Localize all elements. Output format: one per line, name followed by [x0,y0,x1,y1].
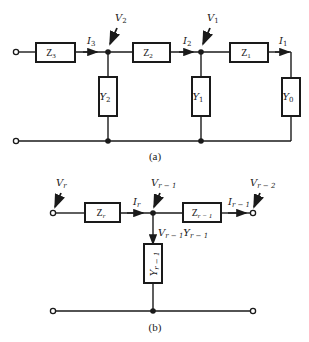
admittance-y1: Y1 [192,77,210,116]
voltage-pointer-icon [154,193,160,207]
impedance-z2: Z2 [133,43,170,62]
current-label-i2: I2 [182,35,191,48]
terminal-icon [50,308,55,313]
node-icon [150,308,156,314]
figure-a-caption: (a) [149,150,162,163]
terminal-icon [250,308,255,313]
node-icon [150,210,156,216]
current-label-ir-1: Ir − 1 [227,196,250,209]
figure-b: Zr Zr − 1 Yr − 1 Ir Ir − 1 Vr Vr − 1 Vr … [50,177,275,334]
terminal-icon [250,210,255,215]
impedance-zr: Zr [85,203,120,222]
terminal-icon [50,210,55,215]
current-label-ir: Ir [132,196,141,209]
figure-a: Z3 Z2 Z1 Y2 Y1 Y0 I3 I2 I1 [13,12,300,163]
impedance-zr-1: Zr − 1 [183,203,221,222]
voltage-label-vr-1: Vr − 1 [151,177,176,190]
current-label-i3: I3 [86,35,95,48]
admittance-yr-1: Yr − 1 [144,244,162,283]
node-icon [198,138,204,144]
node-icon [105,138,111,144]
voltage-pointer-icon [55,193,61,207]
impedance-z3: Z3 [36,43,75,62]
terminal-icon [13,138,18,143]
current-label-i1: I1 [278,35,287,48]
branch-current-label: Vr − 1Yr − 1 [158,227,208,240]
terminal-icon [13,49,18,54]
voltage-pointer-icon [254,193,260,207]
voltage-pointer-icon [203,28,210,44]
voltage-label-v1: V1 [207,12,219,25]
admittance-y2: Y2 [99,77,117,116]
voltage-label-v2: V2 [115,12,127,25]
node-icon [105,49,111,55]
voltage-pointer-icon [110,28,117,44]
voltage-label-vr: Vr [56,177,67,190]
admittance-y0: Y0 [282,78,300,116]
impedance-z1: Z1 [230,43,268,62]
ladder-network-diagram: Z3 Z2 Z1 Y2 Y1 Y0 I3 I2 I1 [0,0,309,342]
figure-b-caption: (b) [149,321,162,334]
node-icon [198,49,204,55]
voltage-label-vr-2: Vr − 2 [250,177,276,190]
